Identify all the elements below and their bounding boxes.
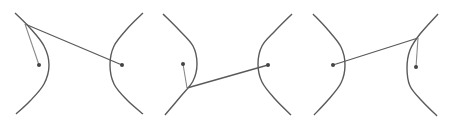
panel-2 <box>163 14 292 115</box>
hyperbola-left-branch <box>313 14 345 115</box>
panel-1 <box>15 13 143 114</box>
hyperbola-left-branch <box>15 13 49 114</box>
hyperbola-right-branch <box>258 14 292 115</box>
hyperbola-right-branch <box>110 13 143 114</box>
focal-radius-long <box>25 24 122 65</box>
focal-radius-short <box>416 38 418 67</box>
focus-right-dot <box>414 65 418 69</box>
focus-left-dot <box>37 63 41 67</box>
focus-left-dot <box>181 62 185 66</box>
focal-radius-long <box>187 65 268 88</box>
focus-right-dot <box>266 63 270 67</box>
hyperbola-left-branch <box>163 14 197 115</box>
diagram-svg <box>0 0 454 125</box>
hyperbola-diagram <box>0 0 454 125</box>
panel-3 <box>313 14 438 116</box>
focus-left-dot <box>331 63 335 67</box>
focal-radius-long <box>333 38 418 65</box>
focus-right-dot <box>120 63 124 67</box>
focal-radius-short <box>183 64 187 88</box>
hyperbola-right-branch <box>407 14 438 116</box>
